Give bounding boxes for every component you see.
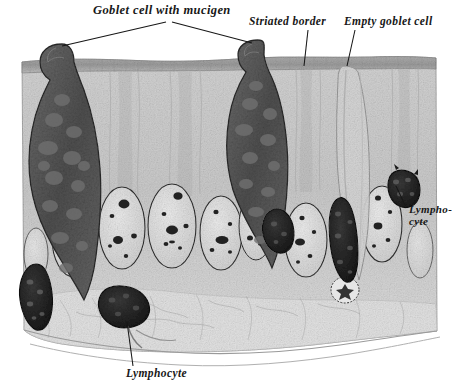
label-lymphocyte-right-line1: Lympho-	[409, 203, 452, 215]
nucleus	[148, 184, 196, 268]
nucleus	[407, 222, 433, 278]
label-lymphocyte-bottom: Lymphocyte	[126, 367, 187, 379]
nucleus	[200, 196, 242, 270]
leader-goblet-left	[62, 22, 166, 46]
label-goblet-cell: Goblet cell with mucigen	[93, 3, 231, 18]
label-striated-border: Striated border	[249, 15, 326, 27]
label-empty-goblet-cell: Empty goblet cell	[344, 15, 433, 27]
leader-goblet-center	[172, 22, 252, 43]
label-lymphocyte-right-line2: cyte	[409, 215, 452, 227]
nucleus	[99, 187, 145, 269]
label-lymphocyte-right: Lympho- cyte	[409, 203, 452, 227]
